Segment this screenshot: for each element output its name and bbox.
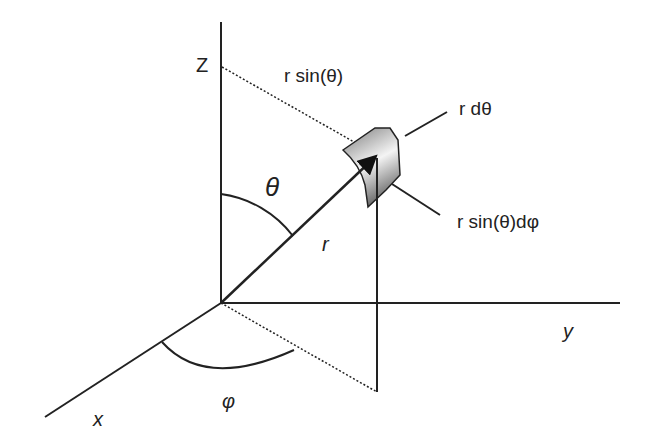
x-axis-label: x [93,408,103,431]
r-sin-theta-label: r sin(θ) [284,65,343,87]
phi-arc [162,342,294,368]
leader-r-dtheta [405,112,447,136]
theta-label: θ [265,172,279,203]
leader-r-sin-dphi [392,184,440,215]
z-axis-label: Z [196,54,208,77]
r-vector [221,158,374,303]
r-label: r [322,233,329,256]
y-axis-label: y [563,320,573,343]
projection-dotted-bottom [221,303,377,392]
r-dtheta-label: r dθ [459,98,492,120]
r-sin-theta-dphi-label: r sin(θ)dφ [457,211,539,233]
theta-arc [221,194,293,236]
x-axis [45,303,221,417]
phi-label: φ [222,390,235,413]
